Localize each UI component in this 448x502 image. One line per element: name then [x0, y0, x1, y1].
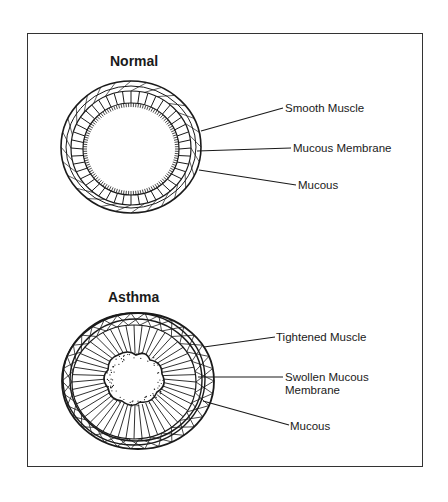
- label-swollen-mucous-membrane: Swollen Mucous Membrane: [285, 371, 369, 397]
- label-swollen-line2: Membrane: [285, 384, 340, 396]
- asthma-airway-cross-section: [62, 313, 289, 449]
- label-tightened-muscle: Tightened Muscle: [276, 331, 366, 344]
- airway-illustrations: [0, 0, 448, 502]
- label-mucous-membrane: Mucous Membrane: [293, 142, 391, 155]
- asthma-title: Asthma: [108, 289, 159, 305]
- label-smooth-muscle: Smooth Muscle: [285, 102, 364, 115]
- normal-airway-cross-section: [61, 81, 296, 213]
- label-mucous-normal: Mucous: [298, 179, 338, 192]
- label-mucous-asthma: Mucous: [290, 420, 330, 433]
- normal-title: Normal: [110, 53, 158, 69]
- label-swollen-line1: Swollen Mucous: [285, 371, 369, 383]
